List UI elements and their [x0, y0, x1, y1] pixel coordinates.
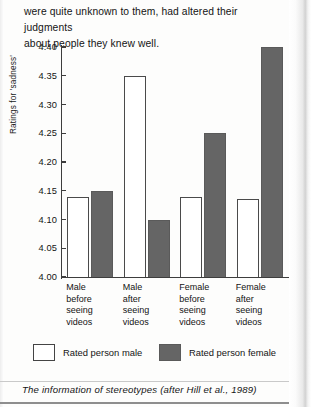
figure-caption: The information of stereotypes (after Hi… [22, 384, 290, 395]
x-axis-label-line: before [179, 294, 236, 306]
x-axis-label-line: after [123, 294, 180, 306]
legend-item-rated-person-male: Rated person male [33, 344, 142, 361]
scanned-page: were quite unknown to them, had altered … [0, 0, 311, 407]
y-tick-mark [62, 161, 66, 162]
y-tick-label: 4.00 [39, 272, 62, 282]
x-axis-label-line: seeing [236, 305, 293, 317]
y-tick-label: 4.40 [39, 42, 62, 52]
page-right-gutter-shadow [289, 0, 311, 407]
legend-label-female: Rated person female [189, 347, 276, 358]
bar-light-3 [180, 197, 202, 278]
x-axis-label-4: Femaleafterseeingvideos [236, 282, 293, 328]
y-tick-label: 4.10 [39, 215, 62, 225]
y-tick-label: 4.35 [39, 71, 62, 81]
x-axis-label-line: videos [179, 317, 236, 329]
x-axis-label-line: Female [236, 282, 293, 294]
y-tick-mark [62, 104, 66, 105]
bar-dark-1 [91, 191, 113, 277]
y-tick-mark [62, 248, 66, 249]
y-tick-label: 4.15 [39, 186, 62, 196]
x-axis-label-line: Female [179, 282, 236, 294]
y-axis-title: Ratings for 'sadness' [9, 14, 18, 134]
legend-item-rated-person-female: Rated person female [159, 344, 276, 361]
x-axis-label-line: seeing [66, 305, 123, 317]
y-tick-mark [62, 190, 66, 191]
bar-dark-3 [204, 133, 226, 277]
bar-light-4 [237, 199, 259, 277]
legend-swatch-dark [159, 344, 181, 361]
y-tick-mark [62, 133, 66, 134]
y-tick-label: 4.20 [39, 157, 62, 167]
chart-legend: Rated person male Rated person female [33, 344, 288, 368]
y-tick-label: 4.05 [39, 243, 62, 253]
bar-dark-4 [261, 47, 283, 277]
y-tick-mark [62, 276, 66, 277]
y-tick-label: 4.30 [39, 100, 62, 110]
y-tick-mark [62, 75, 66, 76]
y-tick-label: 4.25 [39, 128, 62, 138]
caption-divider [0, 381, 289, 382]
x-axis-label-3: Femalebeforeseeingvideos [179, 282, 236, 328]
x-axis-label-line: Male [66, 282, 123, 294]
bar-light-2 [124, 76, 146, 277]
plot-area: 4.404.354.304.254.204.154.104.054.00 [62, 47, 288, 277]
bar-chart-figure: Ratings for 'sadness' 4.404.354.304.254.… [0, 38, 292, 383]
bar-light-1 [67, 197, 89, 278]
body-text-line-1: were quite unknown to them, had altered … [24, 4, 282, 36]
x-axis-label-line: seeing [179, 305, 236, 317]
x-axis-label-group: MalebeforeseeingvideosMaleafterseeingvid… [62, 282, 288, 344]
x-axis-label-line: videos [66, 317, 123, 329]
y-tick-mark [62, 46, 66, 47]
x-axis-label-line: Male [123, 282, 180, 294]
x-axis-label-line: after [236, 294, 293, 306]
x-axis-label-line: videos [123, 317, 180, 329]
legend-label-male: Rated person male [63, 347, 142, 358]
page-bottom-rule [0, 402, 289, 404]
x-axis-line [61, 277, 289, 278]
bar-dark-2 [148, 220, 170, 278]
x-axis-label-line: before [66, 294, 123, 306]
x-axis-label-1: Malebeforeseeingvideos [66, 282, 123, 328]
y-tick-mark [62, 219, 66, 220]
x-axis-label-line: videos [236, 317, 293, 329]
x-axis-label-line: seeing [123, 305, 180, 317]
legend-swatch-light [33, 344, 55, 361]
x-axis-label-2: Maleafterseeingvideos [123, 282, 180, 328]
